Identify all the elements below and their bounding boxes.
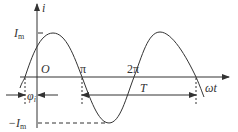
y-axis-label: i bbox=[42, 1, 45, 15]
x-axis-label: ωt bbox=[205, 81, 217, 95]
origin-label: O bbox=[41, 62, 50, 76]
diagram-canvas: i ωt O Im −Im φi π 2π T bbox=[0, 0, 238, 132]
sine-current-diagram: i ωt O Im −Im φi π 2π T bbox=[0, 0, 238, 132]
period-label: T bbox=[140, 81, 148, 95]
two-pi-label: 2π bbox=[127, 62, 139, 76]
amplitude-label: Im bbox=[13, 26, 25, 41]
neg-amplitude-label: −Im bbox=[8, 116, 27, 131]
phase-label: φi bbox=[27, 89, 36, 104]
pi-label: π bbox=[80, 62, 86, 76]
